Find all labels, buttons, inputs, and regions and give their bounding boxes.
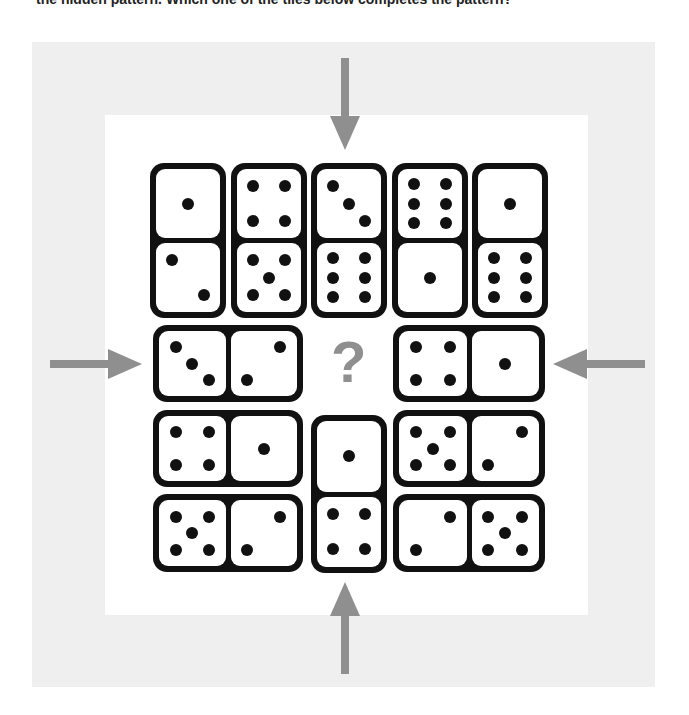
- die-face-2: [472, 416, 540, 481]
- domino-r4-left: [153, 494, 303, 572]
- domino-r3-center: [311, 415, 387, 573]
- pip: [203, 544, 215, 556]
- pip: [263, 272, 275, 284]
- die-face-2: [231, 500, 298, 566]
- die-face-3: [317, 169, 381, 238]
- pip: [170, 426, 182, 438]
- pip: [440, 217, 452, 229]
- domino-r2-left: [153, 325, 303, 402]
- domino-r4-right: [393, 494, 545, 572]
- pip: [247, 254, 259, 266]
- pip: [170, 544, 182, 556]
- pip: [241, 544, 253, 556]
- die-face-4: [159, 416, 226, 481]
- pip: [440, 198, 452, 210]
- pip: [203, 511, 215, 523]
- missing-tile-question-mark: ?: [331, 333, 366, 391]
- pip: [359, 272, 371, 284]
- die-face-3: [159, 331, 226, 396]
- domino-r1c1: [150, 163, 226, 318]
- pip: [343, 450, 355, 462]
- domino-r1c3: [311, 163, 387, 318]
- die-face-5: [237, 243, 301, 312]
- pip: [408, 198, 420, 210]
- die-face-4: [237, 169, 301, 238]
- pip: [198, 289, 210, 301]
- pip: [408, 217, 420, 229]
- pip: [504, 198, 516, 210]
- pip: [410, 341, 422, 353]
- pip: [410, 374, 422, 386]
- arrow-left-icon: [553, 349, 645, 379]
- pip: [186, 358, 198, 370]
- die-face-2: [156, 243, 220, 312]
- pip: [488, 272, 500, 284]
- domino-r3-left: [153, 410, 303, 487]
- die-face-6: [478, 243, 542, 312]
- pip: [241, 374, 253, 386]
- pip: [482, 459, 494, 471]
- pip: [170, 511, 182, 523]
- pip: [488, 291, 500, 303]
- pip: [444, 374, 456, 386]
- die-face-6: [317, 243, 381, 312]
- pip: [410, 544, 422, 556]
- die-face-1: [398, 243, 462, 312]
- die-face-6: [398, 169, 462, 238]
- die-face-4: [399, 331, 467, 396]
- arrow-up-icon: [330, 582, 360, 674]
- pip: [482, 511, 494, 523]
- pip: [279, 254, 291, 266]
- die-face-1: [231, 416, 298, 481]
- arrow-down-icon: [330, 58, 360, 150]
- pip: [279, 289, 291, 301]
- pip: [444, 459, 456, 471]
- domino-r1c5: [472, 163, 548, 318]
- die-face-1: [472, 331, 540, 396]
- pip: [203, 459, 215, 471]
- pip: [327, 543, 339, 555]
- instruction-text: the hidden pattern. Which one of the til…: [36, 0, 512, 7]
- die-face-1: [478, 169, 542, 238]
- pip: [359, 215, 371, 227]
- pip: [520, 252, 532, 264]
- pip: [359, 291, 371, 303]
- die-face-1: [156, 169, 220, 238]
- domino-r2-right: [393, 325, 545, 402]
- pip: [247, 215, 259, 227]
- pip: [516, 426, 528, 438]
- domino-r1c4: [392, 163, 468, 318]
- pip: [408, 178, 420, 190]
- domino-r1c2: [231, 163, 307, 318]
- pip: [359, 508, 371, 520]
- pip: [444, 341, 456, 353]
- domino-r3-right: [393, 410, 545, 487]
- pip: [170, 459, 182, 471]
- pip: [410, 426, 422, 438]
- pip: [444, 511, 456, 523]
- pip: [482, 544, 494, 556]
- pip: [488, 252, 500, 264]
- pip: [516, 544, 528, 556]
- pip: [359, 252, 371, 264]
- pip: [516, 511, 528, 523]
- pip: [520, 291, 532, 303]
- pip: [343, 198, 355, 210]
- die-face-4: [317, 497, 381, 568]
- pip: [327, 252, 339, 264]
- pip: [520, 272, 532, 284]
- pip: [327, 180, 339, 192]
- die-face-2: [399, 500, 467, 566]
- pip: [274, 511, 286, 523]
- die-face-5: [472, 500, 540, 566]
- pip: [170, 341, 182, 353]
- pip: [327, 272, 339, 284]
- pip: [410, 459, 422, 471]
- pip: [203, 374, 215, 386]
- pip: [444, 426, 456, 438]
- pip: [279, 215, 291, 227]
- pip: [424, 272, 436, 284]
- pip: [427, 443, 439, 455]
- pip: [247, 180, 259, 192]
- pip: [247, 289, 259, 301]
